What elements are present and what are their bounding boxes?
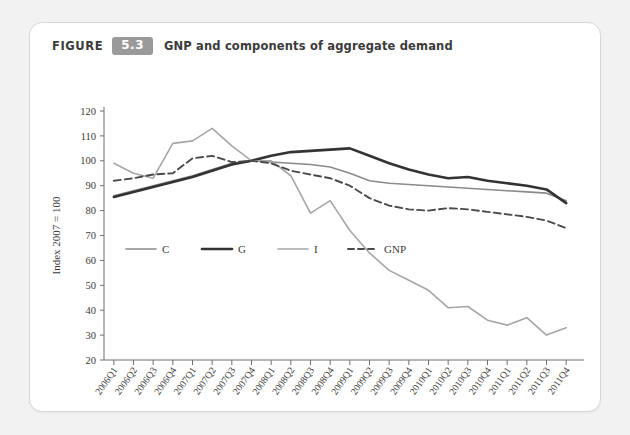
- series-line-G: [114, 148, 566, 203]
- figure-card: FIGURE 5.3 GNP and components of aggrega…: [29, 22, 601, 412]
- legend-label-I: I: [314, 243, 318, 255]
- line-chart: 2030405060708090100110120Index 2007 = 10…: [30, 59, 602, 411]
- series-line-I: [114, 128, 566, 335]
- chart-area: 2030405060708090100110120Index 2007 = 10…: [30, 59, 602, 411]
- legend-label-GNP: GNP: [384, 243, 406, 255]
- y-tick-label: 30: [86, 330, 97, 341]
- y-tick-label: 100: [80, 155, 96, 166]
- legend-label-G: G: [238, 243, 246, 255]
- y-tick-label: 120: [80, 106, 96, 117]
- y-tick-label: 70: [86, 230, 97, 241]
- y-tick-label: 40: [86, 305, 97, 316]
- y-tick-label: 60: [86, 255, 97, 266]
- y-axis-title: Index 2007 = 100: [50, 196, 62, 274]
- y-tick-label: 20: [86, 355, 97, 366]
- figure-number-badge: 5.3: [112, 37, 153, 55]
- figure-label: FIGURE: [52, 39, 103, 53]
- y-tick-label: 90: [86, 180, 97, 191]
- y-tick-label: 80: [86, 205, 97, 216]
- figure-title: GNP and components of aggregate demand: [164, 39, 453, 53]
- legend-label-C: C: [162, 243, 169, 255]
- figure-screenshot: FIGURE 5.3 GNP and components of aggrega…: [0, 0, 630, 435]
- y-tick-label: 50: [86, 280, 97, 291]
- y-tick-label: 110: [81, 131, 96, 142]
- series-line-GNP: [114, 156, 566, 228]
- figure-header: FIGURE 5.3 GNP and components of aggrega…: [52, 36, 453, 56]
